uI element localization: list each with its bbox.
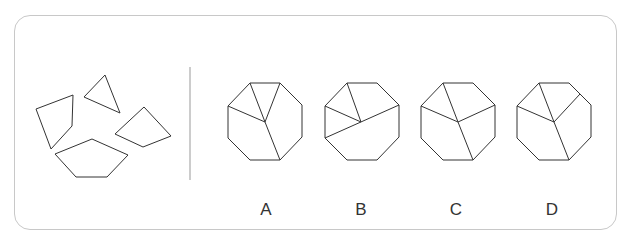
option-c-figure[interactable] [421, 83, 495, 160]
quadrilateral-piece [36, 95, 73, 149]
option-a-label[interactable]: A [251, 200, 281, 220]
pentagon-piece [55, 139, 128, 177]
triangle-piece [84, 75, 120, 113]
option-b-label[interactable]: B [346, 200, 376, 220]
option-c-label[interactable]: C [441, 200, 471, 220]
option-d-figure[interactable] [517, 83, 591, 160]
pieces-group [36, 75, 171, 177]
option-d-label[interactable]: D [537, 200, 567, 220]
option-a-figure[interactable] [228, 83, 302, 160]
puzzle-figures [0, 0, 629, 236]
kite-piece [115, 107, 171, 147]
option-b-figure[interactable] [325, 83, 399, 160]
